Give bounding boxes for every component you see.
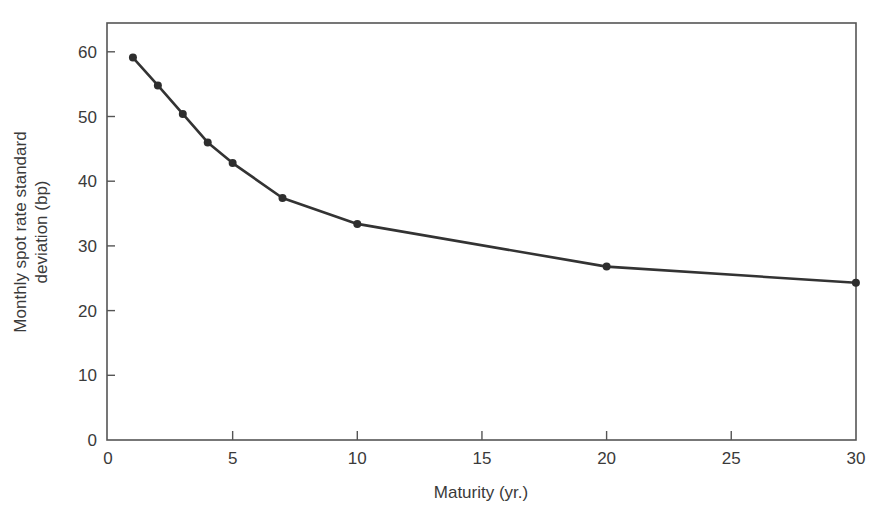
series-line xyxy=(133,58,856,283)
y-tick-label: 0 xyxy=(88,431,97,450)
y-axis-title-line-1: Monthly spot rate standard xyxy=(11,131,30,332)
x-tick-label: 15 xyxy=(472,449,491,468)
x-axis: 051015202530 xyxy=(103,431,865,468)
x-tick-label: 20 xyxy=(597,449,616,468)
data-point-marker xyxy=(279,194,287,202)
x-tick-label: 0 xyxy=(103,449,112,468)
y-tick-label: 50 xyxy=(78,108,97,127)
x-axis-title: Maturity (yr.) xyxy=(434,483,528,502)
line-chart: 0102030405060 051015202530 Maturity (yr.… xyxy=(0,0,879,512)
data-point-marker xyxy=(353,220,361,228)
plot-frame xyxy=(107,23,856,440)
data-point-marker xyxy=(129,54,137,62)
y-tick-label: 60 xyxy=(78,43,97,62)
y-tick-label: 10 xyxy=(78,366,97,385)
y-tick-label: 40 xyxy=(78,172,97,191)
x-tick-label: 30 xyxy=(846,449,865,468)
data-points xyxy=(129,54,860,287)
x-tick-label: 10 xyxy=(348,449,367,468)
data-point-marker xyxy=(204,138,212,146)
data-point-marker xyxy=(603,263,611,271)
y-tick-label: 20 xyxy=(78,302,97,321)
y-tick-label: 30 xyxy=(78,237,97,256)
y-axis-title: Monthly spot rate standard deviation (bp… xyxy=(11,131,51,332)
x-tick-label: 5 xyxy=(228,449,237,468)
data-point-marker xyxy=(154,81,162,89)
data-point-marker xyxy=(852,279,860,287)
x-tick-label: 25 xyxy=(722,449,741,468)
y-axis-title-line-2: deviation (bp) xyxy=(32,180,51,283)
y-axis: 0102030405060 xyxy=(78,43,115,450)
data-point-marker xyxy=(179,110,187,118)
data-point-marker xyxy=(229,159,237,167)
